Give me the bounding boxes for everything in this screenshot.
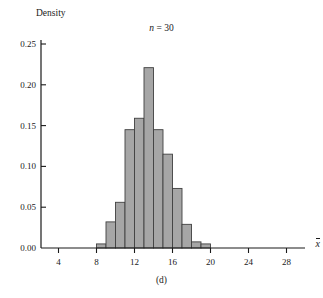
histogram-bar [144, 68, 154, 248]
histogram-bar [201, 244, 211, 248]
x-axis-tick-label: 12 [130, 257, 139, 267]
y-axis-tick-label: 0.10 [2, 161, 36, 171]
y-axis-tick-label: 0.05 [2, 202, 36, 212]
histogram-bar [125, 130, 135, 248]
y-axis-title: Density [36, 8, 66, 18]
overline-glyph [316, 238, 320, 239]
x-axis-tick-label: 8 [94, 257, 99, 267]
histogram-bar [135, 118, 145, 248]
histogram-bar [106, 222, 116, 248]
x-axis-title-base: x [316, 238, 320, 249]
x-axis-ticks [59, 248, 287, 253]
histogram-bars [97, 68, 211, 248]
chart-title-value: = 30 [154, 23, 174, 33]
y-axis-ticks [41, 44, 46, 207]
y-axis-tick-label: 0.25 [2, 39, 36, 49]
histogram-bar [182, 224, 192, 248]
x-axis-tick-label: 16 [168, 257, 177, 267]
x-axis-tick-label: 4 [56, 257, 61, 267]
histogram-bar [163, 154, 173, 248]
x-axis-tick-label: 24 [244, 257, 253, 267]
y-axis-tick-label: 0.00 [2, 243, 36, 253]
x-axis-title: x [316, 238, 320, 249]
y-axis-tick-label: 0.15 [2, 121, 36, 131]
panel-caption: (d) [0, 275, 323, 285]
y-axis-tick-label: 0.20 [2, 80, 36, 90]
histogram-bar [116, 202, 126, 248]
plot-area [0, 0, 323, 298]
x-axis-tick-label: 20 [206, 257, 215, 267]
histogram-bar [97, 244, 107, 248]
density-histogram-figure: Density x n = 30 (d) 0.000.050.100.150.2… [0, 0, 323, 298]
chart-title: n = 30 [0, 23, 323, 33]
x-bar-symbol: x [316, 238, 320, 249]
x-axis-tick-label: 28 [282, 257, 291, 267]
histogram-bar [192, 242, 202, 248]
histogram-bar [154, 130, 164, 248]
histogram-chart [0, 0, 323, 298]
histogram-bar [173, 188, 183, 248]
